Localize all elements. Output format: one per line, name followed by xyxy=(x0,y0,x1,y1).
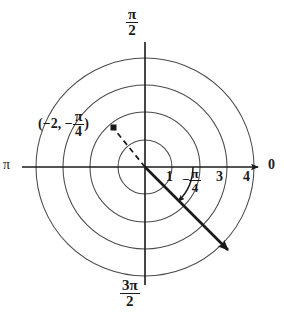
scan-artifact-text: ˙ ˙ xyxy=(60,0,76,8)
plotted-point-marker xyxy=(111,125,117,131)
angle-label-numerator: π xyxy=(189,167,200,181)
axis-label-pi-over-2-numerator: π xyxy=(126,7,138,23)
angle-label-negative-pi-over-4: − π 4 xyxy=(182,167,201,195)
axis-label-pi-over-2-denominator: 2 xyxy=(126,23,138,38)
angle-label-sign: − xyxy=(182,172,189,187)
axis-label-3pi-over-2-denominator: 2 xyxy=(120,294,140,309)
axis-label-pi: π xyxy=(3,158,10,172)
axis-label-3pi-over-2: 3π 2 xyxy=(120,278,140,310)
axis-label-3pi-over-2-numerator: 3π xyxy=(120,278,140,294)
polar-grid-svg xyxy=(0,0,284,320)
radial-tick-label-3: 3 xyxy=(216,170,223,184)
point-label-theta-numerator: π xyxy=(73,110,85,125)
axis-label-pi-over-2: π 2 xyxy=(126,7,138,39)
point-label-theta-denominator: 4 xyxy=(73,125,85,139)
point-label-coordinates: (−2, − π 4 ) xyxy=(38,110,89,140)
polar-diagram: ˙ ˙ xyxy=(0,0,284,320)
point-label-r: −2, xyxy=(43,116,61,131)
angle-label-denominator: 4 xyxy=(189,181,200,194)
point-label-close-paren: ) xyxy=(84,116,89,131)
radial-tick-label-1: 1 xyxy=(166,170,173,184)
dashed-ray-segment xyxy=(115,130,145,167)
axis-label-zero: 0 xyxy=(268,158,275,172)
point-label-theta-sign: − xyxy=(65,116,73,131)
radial-tick-label-4: 4 xyxy=(243,170,250,184)
